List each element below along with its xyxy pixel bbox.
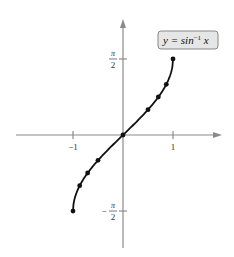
y-tick-label-numerator: π — [111, 49, 116, 58]
data-point — [77, 183, 82, 188]
data-point — [71, 209, 76, 214]
data-point — [156, 95, 161, 100]
data-point — [121, 133, 126, 138]
legend-text-main: y = sin — [162, 34, 194, 46]
axes — [16, 19, 222, 248]
y-tick-label: π2 — [109, 49, 117, 70]
data-point — [146, 107, 151, 112]
legend: y = sin−1 x — [158, 31, 218, 49]
data-point — [164, 82, 169, 87]
y-tick-label-sign: − — [101, 206, 106, 216]
y-tick-label: π2− — [101, 201, 117, 222]
y-tick-label-denominator: 2 — [111, 60, 116, 70]
x-tick-label: −1 — [68, 142, 78, 152]
data-point — [96, 158, 101, 163]
legend-label: y = sin−1 x — [162, 34, 209, 46]
x-axis-arrow-icon — [213, 132, 222, 138]
y-axis-arrow-icon — [120, 19, 126, 28]
y-tick-label-numerator: π — [111, 201, 116, 210]
data-point — [171, 57, 176, 62]
x-tick-label: 1 — [171, 142, 176, 152]
legend-text-var: x — [201, 34, 209, 46]
chart: −11π2π2− y = sin−1 x — [0, 0, 234, 257]
y-tick-label-denominator: 2 — [111, 212, 116, 222]
data-point — [85, 171, 90, 176]
